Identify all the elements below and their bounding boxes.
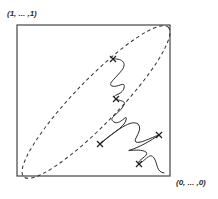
- random-walk-path: [100, 59, 164, 173]
- dashed-ellipse: [8, 12, 184, 192]
- x-marker-4: [156, 132, 162, 138]
- hypercube-diagram: [0, 0, 218, 199]
- x-marker-2: [113, 96, 119, 102]
- x-marker-3: [97, 141, 103, 147]
